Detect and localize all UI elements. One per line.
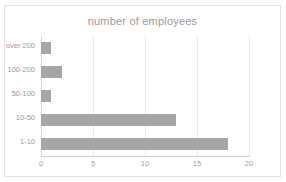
bar [41, 66, 62, 78]
chart-container: number of employees over 200100-20050-10… [4, 5, 281, 177]
category-label: 1-10 [20, 137, 35, 146]
x-tick-label: 0 [39, 159, 43, 168]
x-tick-label: 15 [193, 159, 201, 168]
gridline [249, 36, 250, 156]
category-label: 50-100 [12, 89, 35, 98]
bar-series: over 200100-20050-10010-501-10 [41, 36, 249, 156]
bar-row: 1-10 [41, 132, 249, 156]
x-axis-line [41, 156, 250, 157]
bar-row: 10-50 [41, 108, 249, 132]
bar [41, 90, 51, 102]
x-tick-label: 20 [245, 159, 253, 168]
bar-row: over 200 [41, 36, 249, 60]
chart-title: number of employees [5, 15, 280, 27]
x-tick-label: 5 [91, 159, 95, 168]
bar [41, 42, 51, 54]
plot-area: over 200100-20050-10010-501-10 [41, 36, 249, 156]
category-label: over 200 [6, 41, 35, 50]
bar-row: 50-100 [41, 84, 249, 108]
x-tick-label: 10 [141, 159, 149, 168]
bar [41, 114, 176, 126]
category-label: 100-200 [7, 65, 35, 74]
category-label: 10-50 [16, 113, 35, 122]
bar-row: 100-200 [41, 60, 249, 84]
bar [41, 138, 228, 150]
x-axis-tick-labels: 05101520 [41, 159, 249, 173]
